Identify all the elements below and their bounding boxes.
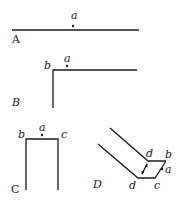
panel-c-channel — [26, 139, 58, 190]
panel-c-label: C — [11, 183, 19, 196]
panel-d-point-a — [161, 168, 163, 170]
panel-a-label-a: a — [71, 9, 78, 22]
panel-c-point-a — [41, 134, 43, 136]
panel-d-label-b: b — [165, 148, 172, 161]
panel-c-label-b: b — [18, 128, 25, 141]
panel-d-arrowhead-bottom — [141, 171, 144, 175]
panel-b-label-a: a — [64, 52, 71, 65]
panel-d-label-c: c — [154, 179, 160, 192]
panel-a-point-a — [72, 25, 74, 27]
panel-b-label: B — [11, 96, 20, 109]
panel-d-upper-edge — [110, 128, 166, 161]
panel-b-point-a — [66, 65, 68, 67]
panel-d: a b c d d D — [92, 128, 172, 192]
panel-d-label: D — [92, 178, 102, 191]
panel-b-label-b: b — [44, 59, 51, 72]
panel-b: a b B — [11, 52, 137, 109]
panel-c-label-a: a — [39, 121, 46, 134]
panel-a-label: A — [11, 33, 21, 46]
panel-d-label-d-top: d — [146, 147, 153, 160]
diagram-canvas: a A a b B a b c C a b c d d D — [0, 0, 180, 211]
panel-c-label-c: c — [61, 128, 67, 141]
panel-d-label-d-bottom: d — [129, 179, 136, 192]
panel-b-corner — [53, 70, 137, 108]
panel-c: a b c C — [11, 121, 67, 196]
panel-a: a A — [11, 9, 139, 46]
panel-d-label-a: a — [165, 163, 172, 176]
